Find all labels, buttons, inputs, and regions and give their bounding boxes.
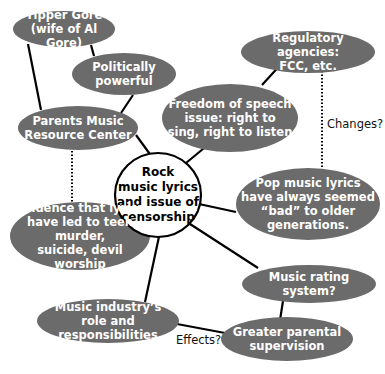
node-tipper-gore: Tipper Gore (wife of Al Gore) xyxy=(13,11,115,47)
concept-map: Tipper Gore (wife of Al Gore) Politicall… xyxy=(0,0,385,374)
edge-center-pop xyxy=(199,204,236,212)
node-music-rating-system: Music rating system? xyxy=(242,265,376,303)
node-evidence: Evidence that lyrics have led to teen mu… xyxy=(10,202,150,270)
node-politically-powerful: Politically powerful xyxy=(72,53,176,95)
edge-tipper-pmrc xyxy=(28,44,41,110)
node-pmrc: Parents Music Resource Center xyxy=(18,106,138,150)
edge-label-changes: Changes? xyxy=(327,117,383,131)
node-greater-parental-supervision: Greater parental supervision xyxy=(221,317,353,361)
node-regulatory-agencies: Regulatory agencies: FCC, etc. xyxy=(241,31,375,73)
node-pop-music-lyrics: Pop music lyrics have always seemed “bad… xyxy=(236,168,380,240)
node-music-industry: Music industry’s role and responsibiliti… xyxy=(37,299,179,343)
edge-label-effects: Effects? xyxy=(176,333,221,347)
edge-industry-parental xyxy=(177,324,225,333)
node-freedom-of-speech: Freedom of speech issue: right to sing, … xyxy=(162,84,298,152)
